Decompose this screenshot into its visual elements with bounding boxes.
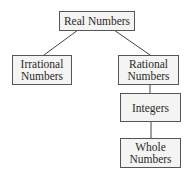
node-label: Integers <box>132 102 169 114</box>
node-irrational-numbers: Irrational Numbers <box>12 55 72 85</box>
node-real-numbers: Real Numbers <box>59 11 135 31</box>
node-rational-numbers: Rational Numbers <box>118 55 179 85</box>
node-label: Irrational Numbers <box>21 58 64 82</box>
node-whole-numbers: Whole Numbers <box>120 138 181 168</box>
node-label: Rational Numbers <box>127 58 169 82</box>
node-integers: Integers <box>120 93 181 122</box>
node-label: Real Numbers <box>64 15 130 27</box>
node-label: Whole Numbers <box>129 141 171 165</box>
